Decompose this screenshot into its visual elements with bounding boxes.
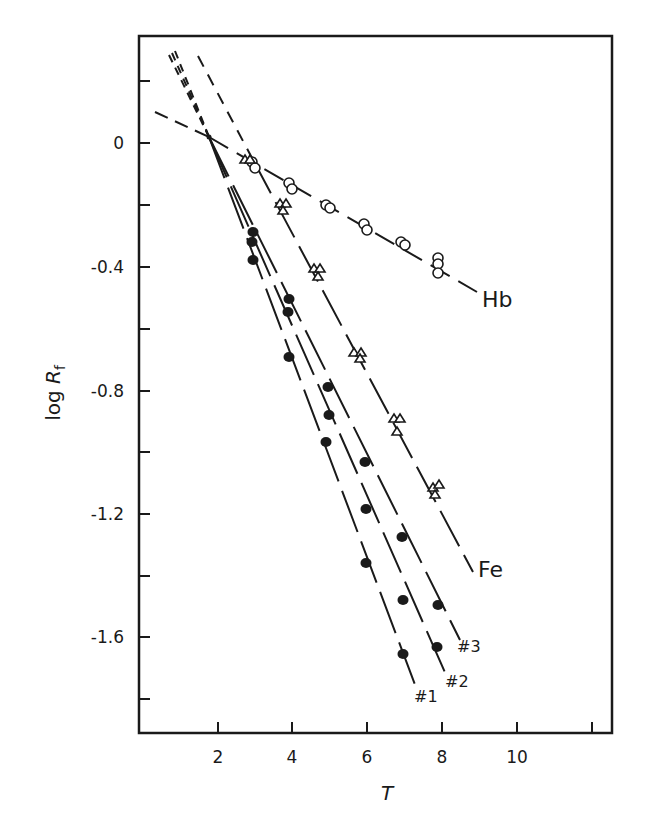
series-label-fe: Fe <box>478 557 503 582</box>
svg-text:log Rf: log Rf <box>41 364 68 421</box>
x-tick-label-2: 2 <box>213 747 224 767</box>
y-tick-label-neg16: -1.6 <box>91 627 124 647</box>
x-axis-title: T <box>381 781 395 805</box>
s3-markers <box>248 227 444 610</box>
x-tick-label-8: 8 <box>437 747 448 767</box>
series-label-s1: #1 <box>414 687 438 706</box>
fe-markers <box>240 155 444 498</box>
x-tick-label-10: 10 <box>506 747 528 767</box>
s1-fit-line <box>209 137 417 690</box>
y-axis-title-log: log <box>41 384 65 421</box>
chart: 0 -0.4 -0.8 -1.2 -1.6 2 4 6 8 10 T log R… <box>0 0 670 823</box>
series-label-s3: #3 <box>457 637 481 656</box>
fe-extrapolation-line <box>198 56 252 158</box>
y-tick-label-neg04: -0.4 <box>91 257 124 277</box>
y-tick-label-0: 0 <box>113 133 124 153</box>
y-tick-label-neg08: -0.8 <box>91 381 124 401</box>
y-axis-title-sub: f <box>52 364 68 370</box>
series-label-s2: #2 <box>445 672 469 691</box>
series-label-hb: Hb <box>482 287 513 312</box>
s2-fit-line <box>209 137 447 677</box>
hb-extrapolation-line <box>155 112 209 137</box>
y-tick-label-neg12: -1.2 <box>91 504 124 524</box>
x-tick-label-4: 4 <box>287 747 298 767</box>
s1-extrapolation-line <box>169 55 209 137</box>
s3-fit-line <box>209 137 460 640</box>
y-axis-ticks <box>139 81 150 699</box>
convergence-point <box>207 135 212 140</box>
s1-markers <box>248 255 409 659</box>
x-tick-label-6: 6 <box>362 747 373 767</box>
x-axis-ticks <box>218 722 592 733</box>
y-axis-title: log Rf <box>41 364 68 421</box>
y-axis-title-R: R <box>41 370 65 384</box>
